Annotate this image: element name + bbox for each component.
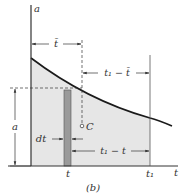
strip-dt xyxy=(64,90,71,166)
centroid-label: C xyxy=(86,121,94,132)
t1-tick-label: t₁ xyxy=(146,168,154,179)
a-value-label: a xyxy=(12,121,18,132)
t1-minus-t-label: t₁ − t xyxy=(100,145,126,156)
y-axis-label: a xyxy=(34,3,40,14)
t1-minus-tbar-label: t₁ − t̄ xyxy=(104,67,130,78)
centroid-point xyxy=(80,124,84,128)
dt-label: dt xyxy=(36,133,47,144)
figure-caption: (b) xyxy=(86,182,100,193)
diagram-canvas: t̄ t₁ − t̄ a dt C t₁ − t a t t t₁ (b) xyxy=(0,0,190,196)
x-axis-label: t xyxy=(174,167,179,178)
t-tick-label: t xyxy=(66,168,71,179)
